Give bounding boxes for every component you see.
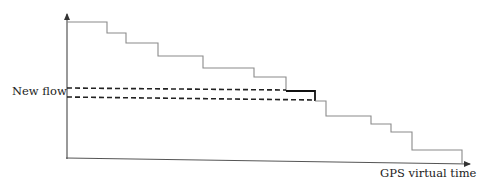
diagram-canvas [0,0,483,184]
new-flow-label: New flow [12,86,67,98]
new-flow-dashed-lower [67,97,315,100]
gps-virtual-time-diagram: New flow GPS virtual time [0,0,483,184]
staircase-upper [67,22,286,91]
new-flow-dashed-upper [67,88,286,90]
staircase-lower [315,101,462,163]
x-axis [66,158,470,164]
x-axis-label: GPS virtual time [380,168,476,180]
